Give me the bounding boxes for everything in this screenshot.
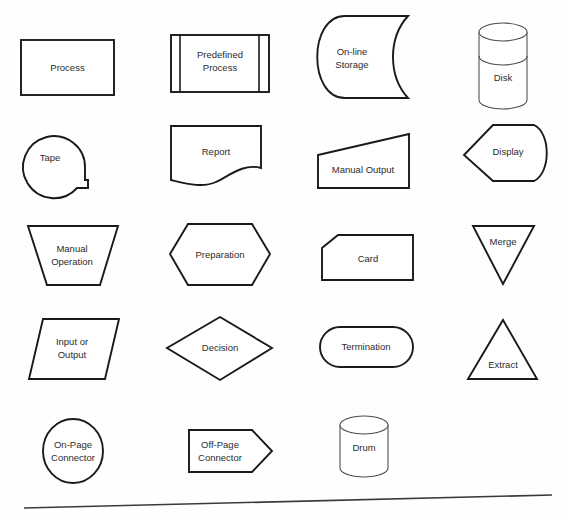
- input-or-output-label-line2: Output: [58, 349, 87, 360]
- card-label: Card: [358, 253, 379, 264]
- input-or-output-label-line1: Input or: [56, 336, 88, 347]
- manual-output-shape: [318, 134, 409, 188]
- predefined-process-label-line2: Process: [203, 62, 238, 73]
- disk-label: Disk: [494, 72, 513, 83]
- symbol-manual-output: Manual Output: [318, 134, 409, 188]
- manual-operation-label-line2: Operation: [51, 256, 93, 267]
- online-storage-shape: [317, 16, 408, 98]
- manual-output-label: Manual Output: [332, 164, 395, 175]
- on-page-connector-label-line2: Connector: [51, 452, 95, 463]
- online-storage-label-line2: Storage: [335, 59, 368, 70]
- process-label: Process: [50, 62, 85, 73]
- flowchart-symbols-sheet: Process Predefined Process On-line Stora…: [0, 0, 567, 515]
- off-page-connector-label-line1: Off-Page: [201, 439, 239, 450]
- decision-label: Decision: [202, 342, 238, 353]
- symbol-display: Display: [464, 125, 547, 181]
- extract-label: Extract: [488, 359, 518, 370]
- display-label: Display: [492, 146, 523, 157]
- symbol-on-page-connector: On-Page Connector: [43, 419, 103, 483]
- baseline-rule: [24, 495, 552, 508]
- symbol-process: Process: [21, 40, 114, 95]
- predefined-process-label-line1: Predefined: [197, 49, 243, 60]
- symbol-card: Card: [322, 235, 413, 280]
- symbol-termination: Termination: [320, 327, 413, 367]
- drum-label: Drum: [352, 442, 375, 453]
- symbol-preparation: Preparation: [170, 224, 270, 285]
- symbol-off-page-connector: Off-Page Connector: [189, 430, 272, 472]
- off-page-connector-label-line2: Connector: [198, 452, 242, 463]
- preparation-label: Preparation: [195, 249, 244, 260]
- symbol-input-or-output: Input or Output: [29, 319, 119, 379]
- symbol-disk: Disk: [479, 23, 527, 109]
- merge-label: Merge: [490, 236, 517, 247]
- report-label: Report: [202, 146, 231, 157]
- online-storage-label-line1: On-line: [337, 46, 368, 57]
- symbol-report: Report: [171, 126, 261, 185]
- symbol-merge: Merge: [473, 226, 534, 284]
- termination-label: Termination: [341, 341, 390, 352]
- extract-shape: [468, 320, 537, 379]
- tape-label: Tape: [40, 152, 61, 163]
- on-page-connector-label-line1: On-Page: [54, 439, 92, 450]
- tape-shape: [23, 136, 88, 198]
- drum-top-ellipse: [340, 416, 388, 434]
- symbol-manual-operation: Manual Operation: [28, 226, 118, 285]
- symbol-predefined-process: Predefined Process: [171, 35, 269, 92]
- disk-body: [479, 32, 527, 109]
- symbol-drum: Drum: [340, 416, 388, 477]
- symbols-canvas: Process Predefined Process On-line Stora…: [0, 0, 567, 515]
- disk-top-ellipse: [479, 23, 527, 41]
- symbol-decision: Decision: [167, 317, 272, 380]
- symbol-extract: Extract: [468, 320, 537, 379]
- manual-operation-label-line1: Manual: [56, 243, 87, 254]
- symbol-tape: Tape: [23, 136, 88, 198]
- symbol-online-storage: On-line Storage: [317, 16, 408, 98]
